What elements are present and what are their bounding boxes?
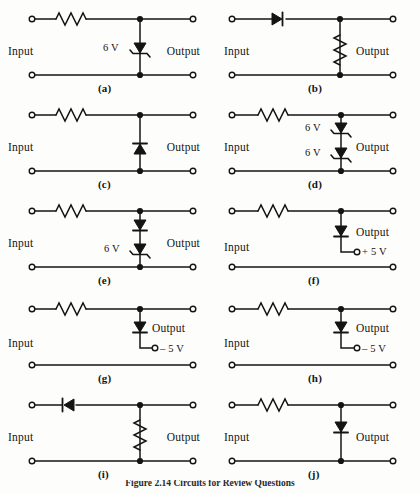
terminal-output-top[interactable] <box>190 16 196 22</box>
terminal-input-bottom[interactable] <box>29 458 35 464</box>
output-label-b: Output <box>356 46 389 58</box>
resistor-symbol <box>56 205 86 217</box>
terminal-input-top[interactable] <box>29 16 35 22</box>
junction-dots <box>338 208 344 214</box>
diode-symbol <box>133 322 147 333</box>
terminal-input-top[interactable] <box>29 306 35 312</box>
terminal-supply[interactable] <box>354 345 360 351</box>
terminal-output-bottom[interactable] <box>190 362 196 368</box>
node-dot-top <box>337 16 343 22</box>
terminal-output-bottom[interactable] <box>190 458 196 464</box>
terminal-output-top[interactable] <box>190 112 196 118</box>
terminal-input-bottom[interactable] <box>29 72 35 78</box>
terminal-output-top[interactable] <box>390 208 396 214</box>
terminal-input-bottom[interactable] <box>229 362 235 368</box>
terminal-output-bottom[interactable] <box>390 362 396 368</box>
input-label-a: Input <box>8 46 33 58</box>
zener-voltage-label-d-bottom: 6 V <box>305 148 321 159</box>
terminal-input-top[interactable] <box>229 402 235 408</box>
terminal-output-bottom[interactable] <box>190 72 196 78</box>
node-dot-bottom <box>137 458 143 464</box>
node-dot-top <box>338 208 344 214</box>
terminal-input-bottom[interactable] <box>29 362 35 368</box>
terminal-supply[interactable] <box>152 345 158 351</box>
terminal-input-bottom[interactable] <box>229 264 235 270</box>
node-dot-top <box>137 112 143 118</box>
terminal-output-bottom[interactable] <box>390 264 396 270</box>
resistor-symbol <box>258 205 288 217</box>
terminal-input-bottom[interactable] <box>29 264 35 270</box>
zener-voltage-label-a: 6 V <box>103 43 119 54</box>
panel-letter-j: (j) <box>308 468 320 480</box>
terminal-output-top[interactable] <box>190 402 196 408</box>
node-dot-bottom <box>338 458 344 464</box>
terminal-input-top[interactable] <box>229 16 235 22</box>
terminal-input-top[interactable] <box>229 208 235 214</box>
diode-symbol <box>133 144 147 155</box>
input-label-i: Input <box>8 432 33 444</box>
node-dot-top <box>137 16 143 22</box>
node-dot-top <box>137 306 143 312</box>
node-dot-top <box>338 112 344 118</box>
output-label-a: Output <box>167 46 200 58</box>
terminal-output-top[interactable] <box>190 208 196 214</box>
terminal-input-top[interactable] <box>229 112 235 118</box>
output-label-c: Output <box>167 142 200 154</box>
node-dot-top <box>137 208 143 214</box>
terminal-input-top[interactable] <box>29 112 35 118</box>
input-label-h: Input <box>224 338 249 350</box>
terminal-output-bottom[interactable] <box>190 264 196 270</box>
terminal-output-top[interactable] <box>390 112 396 118</box>
junction-dots <box>137 306 143 312</box>
terminal-input-bottom[interactable] <box>229 458 235 464</box>
terminal-output-top[interactable] <box>390 306 396 312</box>
node-dot-top <box>338 306 344 312</box>
resistor-symbol <box>258 109 288 121</box>
panel-letter-c: (c) <box>98 178 111 190</box>
terminal-output-top[interactable] <box>190 306 196 312</box>
terminal-output-top[interactable] <box>390 16 396 22</box>
resistor-symbol <box>56 303 86 315</box>
terminal-input-top[interactable] <box>29 402 35 408</box>
terminal-input-bottom[interactable] <box>229 168 235 174</box>
input-label-d: Input <box>224 142 249 154</box>
terminal-input-top[interactable] <box>29 208 35 214</box>
input-label-f: Input <box>224 242 249 254</box>
terminal-input-top[interactable] <box>229 306 235 312</box>
terminals <box>229 208 396 270</box>
diode-symbol-top <box>133 220 147 231</box>
panel-letter-a: (a) <box>98 82 111 94</box>
terminal-output-bottom[interactable] <box>190 168 196 174</box>
node-dot-bottom <box>137 72 143 78</box>
diode-symbol <box>334 322 348 333</box>
output-label-i: Output <box>167 432 200 444</box>
terminal-input-bottom[interactable] <box>229 72 235 78</box>
terminal-supply[interactable] <box>354 249 360 255</box>
terminal-output-bottom[interactable] <box>390 168 396 174</box>
node-dot-bottom <box>338 168 344 174</box>
diode-symbol <box>334 422 348 433</box>
panel-letter-d: (d) <box>308 178 322 190</box>
figure-sheet: Input Output 6 V (a) <box>0 0 420 493</box>
node-dot-top <box>338 402 344 408</box>
node-dot-top <box>137 402 143 408</box>
terminal-output-top[interactable] <box>390 402 396 408</box>
output-label-g: Output <box>152 323 185 335</box>
panel-letter-b: (b) <box>308 82 322 94</box>
diode-symbol <box>63 399 75 412</box>
output-label-d: Output <box>356 142 389 154</box>
resistor-symbol <box>258 303 288 315</box>
zener-voltage-label-d-top: 6 V <box>305 123 321 134</box>
panel-letter-i: (i) <box>98 468 109 480</box>
input-label-c: Input <box>8 142 33 154</box>
input-label-b: Input <box>224 46 249 58</box>
terminal-input-bottom[interactable] <box>29 168 35 174</box>
junction-dots <box>338 306 344 312</box>
supply-label-f: + 5 V <box>362 247 387 258</box>
panel-letter-e: (e) <box>98 274 111 286</box>
node-dot-bottom <box>137 168 143 174</box>
node-dot-bottom <box>337 72 343 78</box>
panel-letter-f: (f) <box>308 274 320 286</box>
terminal-output-bottom[interactable] <box>390 72 396 78</box>
terminal-output-bottom[interactable] <box>390 458 396 464</box>
